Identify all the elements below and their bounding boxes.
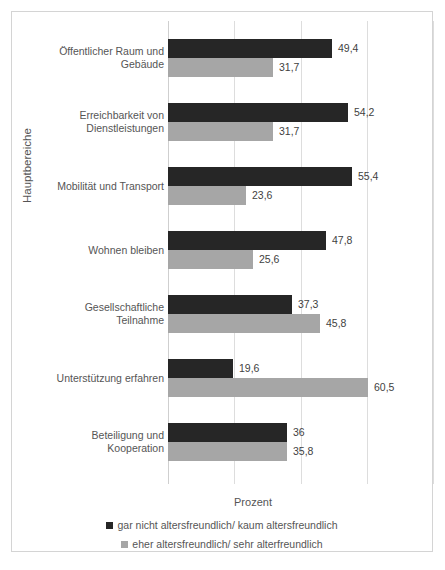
bar[interactable] bbox=[168, 295, 292, 314]
bar-row[interactable]: 47,8 bbox=[168, 231, 352, 250]
legend-label: gar nicht altersfreundlich/ kaum altersf… bbox=[117, 519, 337, 531]
bar-group: 37,345,8 bbox=[168, 295, 434, 333]
bar-row[interactable]: 37,3 bbox=[168, 295, 318, 314]
legend-swatch-icon bbox=[106, 522, 113, 529]
bar-group: 55,423,6 bbox=[168, 167, 434, 205]
category-label: Öffentlicher Raum und Gebäude bbox=[38, 45, 164, 71]
plot-area: 49,431,754,231,755,423,647,825,637,345,8… bbox=[168, 21, 434, 484]
bar-row[interactable]: 45,8 bbox=[168, 314, 346, 333]
bar-row[interactable]: 25,6 bbox=[168, 250, 279, 269]
bar-value-label: 35,8 bbox=[293, 446, 313, 457]
bar-row[interactable]: 49,4 bbox=[168, 39, 358, 58]
legend-label: eher altersfreundlich/ sehr alterfreundl… bbox=[132, 538, 322, 550]
bar[interactable] bbox=[168, 103, 348, 122]
bar-row[interactable]: 54,2 bbox=[168, 103, 374, 122]
bar[interactable] bbox=[168, 314, 320, 333]
bar[interactable] bbox=[168, 167, 352, 186]
bar-groups: 49,431,754,231,755,423,647,825,637,345,8… bbox=[168, 21, 434, 484]
bar[interactable] bbox=[168, 359, 233, 378]
bar[interactable] bbox=[168, 250, 253, 269]
chart-legend: gar nicht altersfreundlich/ kaum altersf… bbox=[12, 516, 432, 554]
bar-value-label: 55,4 bbox=[358, 171, 378, 182]
bar-row[interactable]: 55,4 bbox=[168, 167, 378, 186]
chart-frame: Hauptbereiche Öffentlicher Raum und Gebä… bbox=[11, 11, 433, 552]
y-axis-title: Hauptbereiche bbox=[21, 171, 33, 187]
bar-value-label: 37,3 bbox=[298, 299, 318, 310]
bar-row[interactable]: 23,6 bbox=[168, 186, 272, 205]
bar-value-label: 54,2 bbox=[354, 107, 374, 118]
x-axis-title: Prozent bbox=[12, 496, 432, 508]
bar-value-label: 25,6 bbox=[259, 254, 279, 265]
x-axis-title-text: Prozent bbox=[234, 496, 272, 508]
bar[interactable] bbox=[168, 442, 287, 461]
bar-row[interactable]: 36 bbox=[168, 423, 305, 442]
bar-value-label: 60,5 bbox=[374, 382, 394, 393]
bar-group: 19,660,5 bbox=[168, 359, 434, 397]
legend-swatch-icon bbox=[121, 541, 128, 548]
bar-row[interactable]: 31,7 bbox=[168, 122, 299, 141]
bar-value-label: 36 bbox=[293, 427, 305, 438]
bar-row[interactable]: 19,6 bbox=[168, 359, 259, 378]
category-axis: Öffentlicher Raum und GebäudeErreichbark… bbox=[38, 21, 164, 484]
bar[interactable] bbox=[168, 186, 246, 205]
legend-item[interactable]: gar nicht altersfreundlich/ kaum altersf… bbox=[12, 516, 432, 535]
bar-value-label: 19,6 bbox=[239, 363, 259, 374]
category-label: Erreichbarkeit von Dienstleistungen bbox=[38, 109, 164, 135]
bar-value-label: 23,6 bbox=[252, 190, 272, 201]
legend-item[interactable]: eher altersfreundlich/ sehr alterfreundl… bbox=[12, 535, 432, 554]
category-label: Mobilität und Transport bbox=[38, 180, 164, 193]
bar-row[interactable]: 35,8 bbox=[168, 442, 313, 461]
bar[interactable] bbox=[168, 39, 332, 58]
bar-group: 47,825,6 bbox=[168, 231, 434, 269]
bar-value-label: 45,8 bbox=[326, 318, 346, 329]
bar[interactable] bbox=[168, 378, 368, 397]
bar-row[interactable]: 31,7 bbox=[168, 58, 299, 77]
category-label: Gesellschaftliche Teilnahme bbox=[38, 301, 164, 327]
category-label: Beteiligung und Kooperation bbox=[38, 429, 164, 455]
category-label: Unterstützung erfahren bbox=[38, 372, 164, 385]
bar-group: 49,431,7 bbox=[168, 39, 434, 77]
bar-value-label: 31,7 bbox=[279, 126, 299, 137]
bar[interactable] bbox=[168, 122, 273, 141]
bar-row[interactable]: 60,5 bbox=[168, 378, 394, 397]
bar[interactable] bbox=[168, 231, 326, 250]
bar-group: 54,231,7 bbox=[168, 103, 434, 141]
category-label: Wohnen bleiben bbox=[38, 244, 164, 257]
bar-value-label: 31,7 bbox=[279, 62, 299, 73]
bar-value-label: 47,8 bbox=[332, 235, 352, 246]
y-axis-title-text: Hauptbereiche bbox=[21, 187, 33, 203]
bar-group: 3635,8 bbox=[168, 423, 434, 461]
bar[interactable] bbox=[168, 58, 273, 77]
bar[interactable] bbox=[168, 423, 287, 442]
bar-value-label: 49,4 bbox=[338, 43, 358, 54]
